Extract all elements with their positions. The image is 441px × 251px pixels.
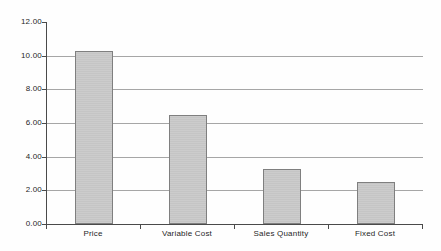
- y-axis-tick: [42, 89, 46, 90]
- y-axis-label-6.00: 6.00: [0, 118, 42, 128]
- y-axis-label-10.00: 10.00: [0, 51, 42, 61]
- y-axis-tick: [42, 56, 46, 57]
- y-axis-label-2.00: 2.00: [0, 185, 42, 195]
- y-axis-tick: [42, 123, 46, 124]
- bar-fixed-cost: [357, 182, 395, 224]
- bar-sales-quantity: [263, 169, 301, 224]
- y-axis-label-8.00: 8.00: [0, 84, 42, 94]
- x-axis-tick: [422, 225, 423, 229]
- x-axis-label-price: Price: [46, 229, 140, 239]
- y-axis-label-12.00: 12.00: [0, 17, 42, 27]
- x-axis-label-sales-quantity: Sales Quantity: [234, 229, 328, 239]
- bar-price: [75, 51, 113, 224]
- x-axis-label-fixed-cost: Fixed Cost: [328, 229, 422, 239]
- y-axis-label-0.00: 0.00: [0, 219, 42, 229]
- y-axis-label-4.00: 4.00: [0, 152, 42, 162]
- plot-area: [46, 22, 423, 225]
- x-axis-label-variable-cost: Variable Cost: [140, 229, 234, 239]
- bar-chart: 0.002.004.006.008.0010.0012.00PriceVaria…: [0, 0, 441, 251]
- y-axis-tick: [42, 157, 46, 158]
- y-axis-tick: [42, 190, 46, 191]
- y-axis-tick: [42, 22, 46, 23]
- bar-variable-cost: [169, 115, 207, 224]
